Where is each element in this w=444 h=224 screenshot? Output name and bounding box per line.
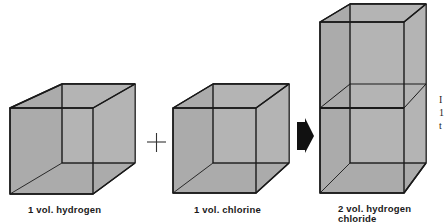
- clipped-edge-text-3: t: [439, 120, 442, 132]
- clipped-edge-text-2: 1: [439, 107, 444, 119]
- plus-icon: [147, 133, 166, 152]
- reaction-diagram: [0, 0, 444, 224]
- chlorine-cube: [173, 84, 289, 193]
- arrow-right-icon: [297, 118, 314, 153]
- hydrogen-chloride-box: [320, 4, 426, 193]
- hydrogen-cube: [10, 84, 135, 194]
- chlorine-label: 1 vol. chlorine: [194, 204, 261, 215]
- hydrogen-chloride-label-line2: chloride: [338, 213, 377, 224]
- hydrogen-label: 1 vol. hydrogen: [28, 204, 101, 215]
- clipped-edge-text-1: I: [439, 94, 442, 106]
